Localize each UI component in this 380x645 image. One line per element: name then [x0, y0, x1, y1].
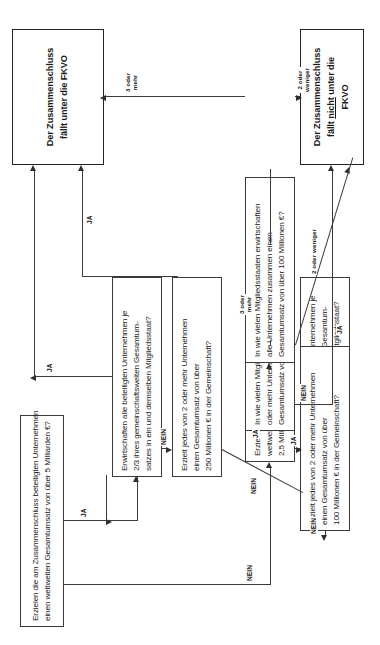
node-q6-line-2: einen Gesamtumsatz von über	[191, 283, 203, 471]
edge-q5-ja-arrow-up	[30, 375, 36, 381]
edge-label-q5-ja: JA	[46, 362, 54, 373]
result-no-nicht-underline: nicht	[326, 97, 336, 118]
edge-label-q7-3plus: 3 odermehr	[238, 294, 253, 315]
edge-label-q3-ja: JA	[336, 324, 344, 335]
edge-q2-ja-arrow	[296, 447, 302, 453]
edge-q1-nein-arrow	[266, 462, 272, 468]
edge-q1-ja-line	[64, 520, 106, 521]
edge-label-q8-2less: 2 oderweniger	[296, 67, 311, 93]
edge-label-q1-ja: JA	[80, 507, 88, 518]
edge-q3-nein-arrow	[321, 535, 327, 541]
result-no-line-1: Der Zusammenschluss	[311, 48, 325, 147]
node-q8-line-1: In wie vielen Mitgliedsstaaten erwirtsch…	[252, 183, 264, 357]
node-q4-turnover-100m: Erzielt jedes von 2 oder mehr Unternehme…	[300, 346, 350, 531]
node-q5-line-2: 2/3 ihres gemeinschaftsweiten Gesamtum-	[131, 283, 143, 471]
edge-q5-ja-h	[34, 169, 35, 377]
node-q6-line-3: 250 Millionen € in der Gemeinschaft?	[203, 283, 215, 471]
node-result-not-under-fkvo: Der Zusammenschluss fällt nicht unter di…	[300, 29, 364, 165]
edge-q4-ja-line	[270, 340, 271, 346]
flowchart-canvas: Erzielen die am Zusammenschluss beteilig…	[0, 0, 380, 645]
result-yes-line-2: fällt unter die FKVO	[58, 55, 72, 139]
edge-q1-nein-h	[270, 467, 271, 585]
edge-q7-3plus-arrow	[266, 363, 272, 369]
edge-q5-nein-arrow	[166, 447, 172, 453]
edge-q1-ja-arrow-into-q5	[133, 476, 139, 482]
edge-q7-3plus-line	[270, 169, 271, 245]
edge-label-q3-nein: NEIN	[310, 517, 318, 535]
node-q5-line-3: satzes in ein und demselben Mitgliedssta…	[143, 283, 155, 471]
edge-label-q7-2less: 2 oder weniger	[310, 228, 317, 275]
node-q6-turnover-250m: Erzielt jedes von 2 oder mehr Unternehme…	[172, 277, 222, 477]
node-q1-line-2: einen weltweiten Gesamtumsatz von über 5…	[42, 421, 54, 621]
edge-q1-ja-into-q5	[137, 477, 138, 521]
node-q6-line-1: Erzielt jedes von 2 oder mehr Unternehme…	[179, 283, 191, 471]
edge-q7-2less-arrow	[344, 166, 351, 173]
edge-q2-nein-riser	[295, 404, 332, 405]
edge-q8-2less-arrow	[296, 95, 302, 101]
node-q5-two-thirds-rule: Erwirtschaften alle beteiligten Unterneh…	[112, 277, 162, 477]
edge-label-q2-nein: NEIN	[300, 384, 308, 402]
result-no-line2-b: unter die	[326, 57, 336, 97]
node-result-falls-under-fkvo: Der Zusammenschluss fällt unter die FKVO	[12, 29, 104, 165]
node-q4-line-2: einen Gesamtumsatz von über	[319, 352, 331, 525]
edge-q1-nein-line	[64, 584, 270, 585]
result-yes-line-1: Der Zusammenschluss	[44, 48, 58, 147]
edge-label-q6-ja: JA	[86, 214, 94, 225]
edge-label-q1-nein: NEIN	[246, 564, 254, 582]
edge-q1-ja-drop	[106, 520, 137, 521]
edge-label-q4-ja: JA	[252, 428, 260, 439]
edge-q5-ja-line	[34, 376, 112, 377]
edge-label-q6-nein: NEIN	[250, 477, 258, 495]
edge-q5-ja-arrow	[30, 165, 36, 171]
node-q5-line-1: Erwirtschaften alle beteiligten Unterneh…	[119, 283, 131, 471]
node-q8-line-3: Gesamtumsatz von über 100 Millionen €?	[276, 183, 288, 357]
result-no-line-3: FKVO	[339, 84, 353, 109]
edge-label-q5-nein: NEIN	[160, 428, 168, 446]
edge-q6-ja-riser	[82, 276, 178, 277]
edge-q2-nein-arrow	[328, 165, 334, 171]
edge-label-q2-ja: JA	[290, 435, 298, 446]
result-no-line2-a: fällt	[326, 119, 336, 137]
edge-q1-ja-connector	[106, 475, 107, 521]
edge-label-q8-3plus: 3 odermehr	[124, 72, 139, 93]
node-q1-worldwide-5bn: Erzielen die am Zusammenschluss beteilig…	[20, 415, 64, 627]
edge-q6-ja-arrow	[78, 165, 84, 171]
node-q1-line-1: Erzielen die am Zusammenschluss beteilig…	[30, 421, 42, 621]
edge-q2-nein-line	[332, 169, 333, 405]
result-no-line-2: fällt nicht unter die	[325, 57, 339, 137]
edge-q8-3plus-riser	[104, 96, 245, 97]
node-q4-line-1: Erzielt jedes von 2 oder mehr Unternehme…	[307, 352, 319, 525]
edge-q6-ja-line	[82, 169, 83, 277]
edge-q8-3plus-arrow	[100, 95, 106, 101]
